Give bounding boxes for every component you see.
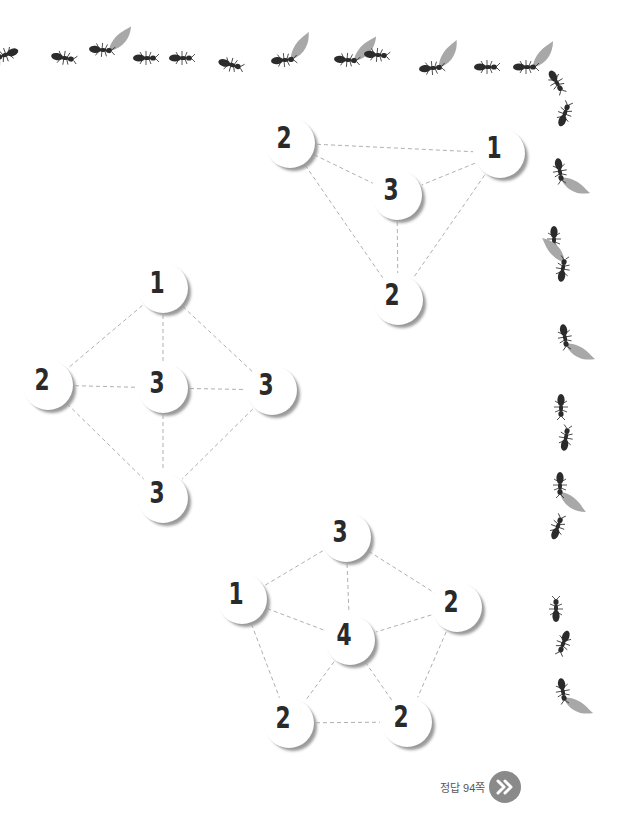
worksheet-page: 213212333312422 정답 94쪽 xyxy=(0,0,617,832)
ant-icon xyxy=(552,628,574,657)
ant-icon xyxy=(554,99,576,128)
ant-icon xyxy=(50,49,78,67)
ant-icon xyxy=(474,60,500,74)
ant-icon xyxy=(169,51,195,65)
ant-icon xyxy=(549,596,563,622)
node-number: 3 xyxy=(247,359,286,409)
node-number: 1 xyxy=(217,568,256,618)
node-number: 1 xyxy=(138,257,177,307)
node-number: 2 xyxy=(432,576,471,626)
answer-page-label: 정답 94쪽 xyxy=(440,779,485,795)
puzzle-diamond-node: 3 xyxy=(138,363,188,413)
puzzle-diamond-node: 3 xyxy=(138,473,188,523)
ant-with-leaf-icon xyxy=(88,23,131,59)
node-number: 2 xyxy=(373,269,412,319)
node-number: 3 xyxy=(372,164,411,214)
ant-with-leaf-icon xyxy=(417,40,460,76)
node-number: 2 xyxy=(264,692,303,742)
ant-icon xyxy=(554,394,568,420)
node-number: 3 xyxy=(138,357,177,407)
ant-with-leaf-icon xyxy=(556,320,595,365)
puzzle-pentagon-node: 2 xyxy=(264,698,314,748)
ant-with-leaf-icon xyxy=(513,41,553,74)
ant-with-leaf-icon xyxy=(535,238,574,283)
puzzle-pentagon-node: 1 xyxy=(217,574,267,624)
node-number: 3 xyxy=(138,467,177,517)
puzzle-diamond-node: 2 xyxy=(23,360,73,410)
answer-reference[interactable]: 정답 94쪽 xyxy=(440,771,521,803)
node-number: 2 xyxy=(23,354,62,404)
ant-icon xyxy=(544,67,569,97)
puzzle-triangle-node: 3 xyxy=(372,170,422,220)
ant-icon xyxy=(217,55,246,75)
ant-icon xyxy=(557,424,575,452)
ant-with-leaf-icon xyxy=(553,472,586,512)
puzzle-pentagon-node: 4 xyxy=(325,615,375,665)
ant-with-leaf-icon xyxy=(554,674,593,719)
node-number: 2 xyxy=(382,691,421,741)
puzzle-pentagon-node: 2 xyxy=(432,582,482,632)
puzzle-triangle-node: 2 xyxy=(373,275,423,325)
puzzle-pentagon-node: 2 xyxy=(382,697,432,747)
puzzle-triangle-node: 1 xyxy=(475,128,525,178)
double-chevron-right-icon[interactable] xyxy=(489,771,521,803)
node-number: 3 xyxy=(321,506,360,556)
puzzle-triangle-node: 2 xyxy=(265,118,315,168)
node-number: 1 xyxy=(475,122,514,172)
ant-with-leaf-icon xyxy=(0,44,27,89)
node-number: 2 xyxy=(265,112,304,162)
puzzle-diamond-node: 1 xyxy=(138,263,188,313)
ant-with-leaf-icon xyxy=(551,154,590,199)
puzzle-pentagon-node: 3 xyxy=(321,512,371,562)
ant-with-leaf-icon xyxy=(269,32,312,68)
puzzle-diamond-node: 3 xyxy=(247,365,297,415)
ant-icon xyxy=(547,512,569,541)
ant-icon xyxy=(133,51,159,65)
node-number: 4 xyxy=(325,609,364,659)
